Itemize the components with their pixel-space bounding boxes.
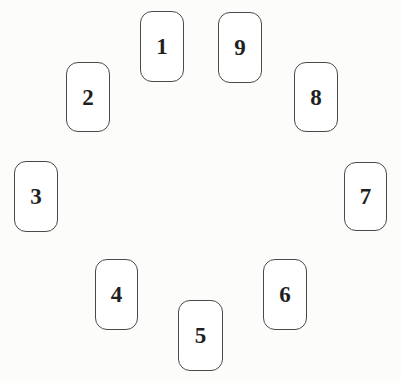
card-number: 4 — [111, 283, 123, 306]
card-1: 1 — [140, 11, 184, 82]
card-number: 3 — [30, 185, 42, 208]
card-8: 8 — [294, 62, 338, 132]
card-9: 9 — [218, 12, 262, 83]
card-number: 5 — [195, 324, 207, 347]
card-spread-diagram: 1 2 3 4 5 6 7 8 9 — [0, 0, 401, 381]
card-number: 6 — [279, 283, 291, 306]
card-3: 3 — [14, 161, 58, 232]
card-4: 4 — [95, 259, 138, 330]
card-7: 7 — [344, 162, 387, 231]
card-number: 8 — [310, 86, 322, 109]
card-number: 1 — [156, 35, 168, 58]
card-number: 7 — [360, 185, 372, 208]
card-2: 2 — [66, 62, 110, 132]
card-5: 5 — [178, 300, 223, 371]
card-6: 6 — [263, 259, 307, 330]
card-number: 9 — [234, 36, 246, 59]
card-number: 2 — [82, 86, 94, 109]
